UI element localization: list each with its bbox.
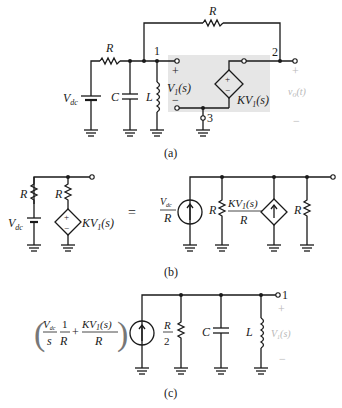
label-dep-b: KV1(s) bbox=[81, 216, 114, 232]
svg-text:+: + bbox=[64, 212, 69, 222]
panel-c: 1 ( Vdc s 1 R + KV1(s) R ) R 2 bbox=[34, 288, 291, 400]
terminal-output bbox=[293, 59, 297, 63]
source-expression: ( Vdc s 1 R + KV1(s) R ) bbox=[34, 315, 128, 353]
svg-text:s: s bbox=[47, 334, 52, 348]
terminal-node1 bbox=[175, 59, 179, 63]
svg-text:R: R bbox=[208, 203, 217, 217]
svg-text:+: + bbox=[225, 74, 230, 84]
label-vdc: Vdc bbox=[63, 91, 78, 107]
panel-b: R Vdc R + − KV1(s) = Vdc R R KV1(s) R bbox=[8, 175, 335, 279]
label-vout: vo(t) bbox=[288, 86, 307, 99]
caption-a: (a) bbox=[164, 146, 177, 160]
svg-text:1: 1 bbox=[282, 288, 288, 302]
svg-text:−: − bbox=[293, 114, 300, 128]
svg-text:+: + bbox=[278, 302, 285, 316]
svg-text:R: R bbox=[59, 334, 68, 348]
svg-text:KV1(s): KV1(s) bbox=[81, 318, 112, 332]
svg-text:−: − bbox=[225, 85, 230, 95]
svg-text:−: − bbox=[172, 93, 179, 107]
label-v1: V1(s) bbox=[167, 81, 191, 97]
svg-text:−: − bbox=[64, 223, 69, 233]
svg-text:−: − bbox=[279, 352, 286, 366]
svg-text:R: R bbox=[94, 334, 103, 348]
svg-text:Vdc: Vdc bbox=[43, 318, 56, 331]
label-inductor: L bbox=[145, 90, 153, 104]
svg-text:): ) bbox=[117, 315, 128, 353]
label-top-resistor: R bbox=[208, 4, 217, 18]
label-series-resistor: R bbox=[105, 41, 114, 55]
svg-text:R: R bbox=[239, 213, 248, 227]
svg-text:1: 1 bbox=[62, 318, 68, 330]
svg-text:Vdc: Vdc bbox=[160, 196, 172, 208]
caption-b: (b) bbox=[164, 265, 178, 279]
label-node2: 2 bbox=[272, 45, 278, 59]
circuit-figure: R R Vdc C L 1 + V1(s) − bbox=[0, 0, 342, 408]
svg-text:R: R bbox=[19, 187, 28, 201]
svg-text:KV1(s): KV1(s) bbox=[227, 197, 258, 211]
svg-text:R: R bbox=[54, 187, 63, 201]
svg-text:2: 2 bbox=[164, 335, 170, 347]
label-node3: 3 bbox=[207, 111, 213, 125]
svg-text:+: + bbox=[172, 64, 179, 78]
label-capacitor: C bbox=[111, 90, 120, 104]
svg-text:+: + bbox=[72, 325, 79, 339]
panel-a: R R Vdc C L 1 + V1(s) − bbox=[63, 4, 307, 160]
svg-text:R: R bbox=[163, 211, 172, 225]
caption-c: (c) bbox=[164, 386, 177, 400]
svg-text:V1(s): V1(s) bbox=[271, 328, 291, 340]
label-node1: 1 bbox=[154, 44, 160, 58]
svg-text:R: R bbox=[163, 319, 171, 331]
svg-text:+: + bbox=[292, 64, 299, 78]
svg-text:C: C bbox=[202, 325, 211, 339]
equals-sign: = bbox=[128, 205, 136, 220]
svg-text:L: L bbox=[245, 325, 253, 339]
label-vdc-b: Vdc bbox=[8, 216, 23, 232]
svg-text:R: R bbox=[293, 203, 302, 217]
